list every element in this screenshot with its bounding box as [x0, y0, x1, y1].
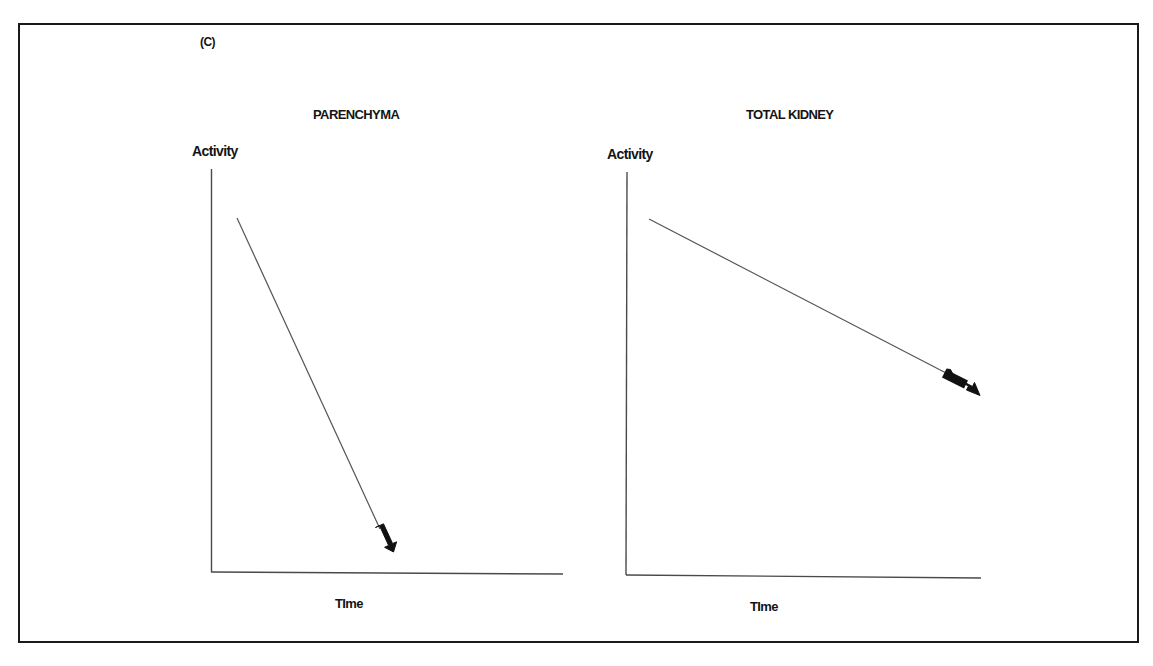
trend-line-parenchyma — [237, 218, 380, 529]
arrow-icon — [942, 369, 980, 396]
chart-total-kidney — [626, 172, 981, 578]
y-axis-total-kidney — [626, 172, 627, 575]
chart-parenchyma — [211, 169, 563, 574]
arrow-icon — [376, 524, 397, 552]
x-axis-parenchyma — [211, 572, 563, 574]
x-axis-total-kidney — [626, 575, 981, 578]
plots-canvas — [0, 0, 1153, 666]
trend-line-total-kidney — [649, 219, 948, 374]
